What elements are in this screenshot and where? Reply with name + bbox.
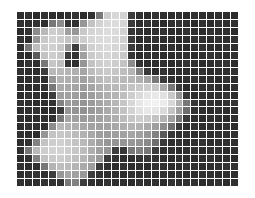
pixel-cell <box>25 36 32 43</box>
figure-page <box>0 0 255 198</box>
pixel-cell <box>128 155 135 162</box>
pixel-cell <box>96 44 103 51</box>
pixel-cell <box>152 92 159 99</box>
pixel-cell <box>160 123 167 130</box>
pixel-cell <box>57 52 64 59</box>
pixel-cell <box>72 76 79 83</box>
pixel-cell <box>128 28 135 35</box>
pixel-cell <box>215 100 222 107</box>
pixel-cell <box>207 28 214 35</box>
pixel-cell <box>231 107 238 114</box>
pixel-cell <box>57 100 64 107</box>
pixel-cell <box>112 52 119 59</box>
pixel-cell <box>144 115 151 122</box>
pixel-cell <box>49 20 56 27</box>
pixel-cell <box>25 76 32 83</box>
pixel-cell <box>199 171 206 178</box>
pixel-cell <box>112 20 119 27</box>
pixel-cell <box>80 139 87 146</box>
pixel-cell <box>215 68 222 75</box>
pixel-cell <box>96 123 103 130</box>
pixel-cell <box>72 36 79 43</box>
pixel-cell <box>128 115 135 122</box>
pixel-cell <box>25 52 32 59</box>
pixel-cell <box>168 100 175 107</box>
pixel-cell <box>191 107 198 114</box>
pixel-cell <box>88 76 95 83</box>
pixel-cell <box>176 171 183 178</box>
pixel-cell <box>57 107 64 114</box>
pixel-cell <box>144 28 151 35</box>
pixel-cell <box>112 28 119 35</box>
pixel-cell <box>33 92 40 99</box>
pixel-cell <box>25 171 32 178</box>
pixel-cell <box>120 68 127 75</box>
pixel-cell <box>17 84 24 91</box>
pixel-cell <box>96 147 103 154</box>
pixel-cell <box>25 60 32 67</box>
pixel-cell <box>88 100 95 107</box>
pixel-cell <box>41 60 48 67</box>
pixel-cell <box>128 36 135 43</box>
pixel-cell <box>88 20 95 27</box>
pixel-cell <box>41 12 48 19</box>
pixel-cell <box>176 60 183 67</box>
pixel-cell <box>128 131 135 138</box>
pixel-cell <box>104 115 111 122</box>
pixel-cell <box>136 28 143 35</box>
pixel-cell <box>65 60 72 67</box>
pixel-cell <box>80 12 87 19</box>
pixel-cell <box>223 139 230 146</box>
pixel-cell <box>199 60 206 67</box>
pixel-cell <box>144 60 151 67</box>
pixel-cell <box>33 171 40 178</box>
pixel-cell <box>104 44 111 51</box>
pixel-cell <box>112 123 119 130</box>
pixel-cell <box>17 52 24 59</box>
pixel-cell <box>33 155 40 162</box>
pixel-cell <box>231 28 238 35</box>
pixel-cell <box>191 139 198 146</box>
pixel-cell <box>57 44 64 51</box>
pixel-cell <box>191 60 198 67</box>
pixel-cell <box>112 155 119 162</box>
pixel-cell <box>112 115 119 122</box>
pixel-cell <box>223 28 230 35</box>
pixel-cell <box>104 76 111 83</box>
pixel-cell <box>160 84 167 91</box>
pixel-cell <box>41 155 48 162</box>
pixel-cell <box>80 20 87 27</box>
pixel-cell <box>144 171 151 178</box>
pixel-cell <box>136 68 143 75</box>
pixel-cell <box>96 28 103 35</box>
pixel-cell <box>72 12 79 19</box>
pixel-cell <box>191 179 198 186</box>
pixel-cell <box>104 20 111 27</box>
pixel-cell <box>183 44 190 51</box>
pixel-cell <box>168 12 175 19</box>
pixel-cell <box>65 147 72 154</box>
pixel-cell <box>215 131 222 138</box>
pixel-cell <box>168 147 175 154</box>
pixel-cell <box>104 84 111 91</box>
pixel-cell <box>104 123 111 130</box>
pixel-cell <box>215 115 222 122</box>
pixel-cell <box>136 171 143 178</box>
pixel-cell <box>152 68 159 75</box>
pixel-cell <box>160 100 167 107</box>
pixel-cell <box>231 84 238 91</box>
pixel-cell <box>223 155 230 162</box>
pixel-cell <box>136 163 143 170</box>
pixel-cell <box>168 155 175 162</box>
pixel-cell <box>144 179 151 186</box>
pixel-cell <box>199 84 206 91</box>
pixel-cell <box>72 68 79 75</box>
pixel-cell <box>25 147 32 154</box>
pixel-cell <box>104 60 111 67</box>
pixel-cell <box>120 107 127 114</box>
pixel-cell <box>160 115 167 122</box>
pixel-cell <box>65 115 72 122</box>
pixel-cell <box>25 12 32 19</box>
pixel-cell <box>207 68 214 75</box>
pixel-cell <box>96 84 103 91</box>
